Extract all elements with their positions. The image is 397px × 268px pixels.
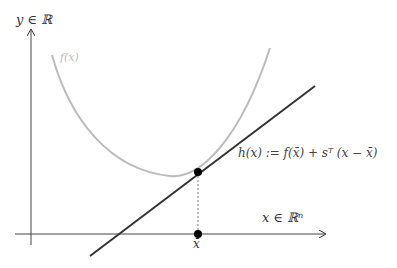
- curve-label: f(x): [60, 51, 79, 64]
- tangent-label: h(x) := f(x̄) + sᵀ (x − x̄): [238, 146, 377, 160]
- y-axis-label: y ∈ ℝ: [16, 12, 52, 27]
- point-label: x̄: [193, 237, 200, 251]
- tangent-point: [194, 168, 202, 176]
- tangent-line: [90, 86, 315, 256]
- subgradient-diagram: [0, 0, 397, 268]
- x-axis-label: x ∈ ℝⁿ: [262, 210, 303, 225]
